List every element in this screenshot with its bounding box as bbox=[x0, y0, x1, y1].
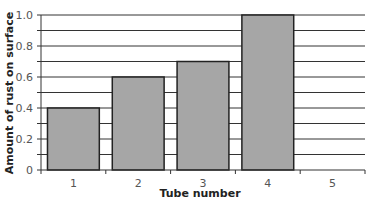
y-tick-label: 0 bbox=[26, 164, 33, 177]
y-axis-title: Amount of rust on surface bbox=[3, 12, 16, 175]
x-tick-label: 1 bbox=[70, 177, 77, 190]
bar-tube-1 bbox=[47, 108, 99, 170]
bar-chart: 00.20.40.60.81.0 12345 Tube number Amoun… bbox=[0, 0, 371, 203]
y-tick-labels: 00.20.40.60.81.0 bbox=[16, 9, 34, 177]
y-tick-label: 0.6 bbox=[16, 71, 34, 84]
bar-tube-4 bbox=[242, 15, 294, 170]
y-tick-label: 1.0 bbox=[16, 9, 34, 22]
x-tick-label: 4 bbox=[264, 177, 271, 190]
x-axis-title: Tube number bbox=[159, 187, 241, 200]
bar-tube-2 bbox=[112, 77, 164, 170]
bar-tube-3 bbox=[177, 62, 229, 171]
y-tick-label: 0.2 bbox=[16, 133, 34, 146]
y-tick-label: 0.8 bbox=[16, 40, 34, 53]
x-tick-label: 2 bbox=[135, 177, 142, 190]
x-tick-label: 5 bbox=[329, 177, 336, 190]
y-tick-label: 0.4 bbox=[16, 102, 34, 115]
